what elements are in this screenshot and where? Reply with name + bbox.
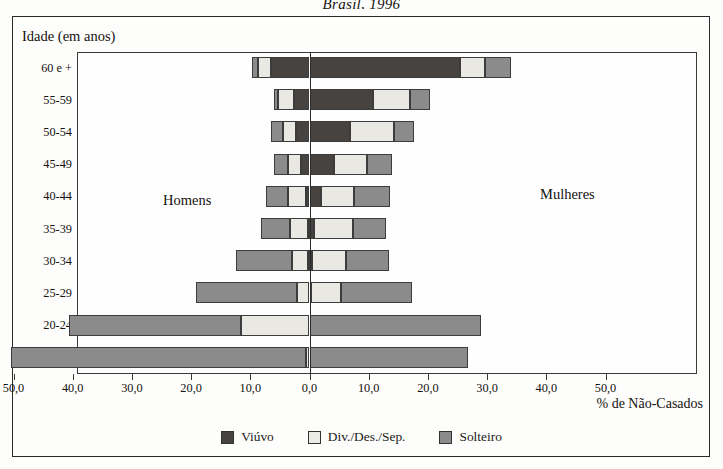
bar-segment-homens-viuvo — [296, 121, 310, 142]
bar-segment-homens-div — [278, 89, 295, 110]
bar-segment-mulheres-div — [312, 250, 346, 271]
x-tick-mark — [369, 374, 370, 380]
bar-segment-homens-solteiro — [11, 347, 306, 368]
legend-swatch-solteiro — [439, 431, 452, 444]
bar-segment-mulheres-solteiro — [341, 282, 411, 303]
legend-item-solteiro: Solteiro — [439, 429, 501, 445]
bar-segment-mulheres-div — [350, 121, 393, 142]
figure-root: Brasil, 1996 Idade (em anos) 60 e +55-59… — [0, 0, 723, 469]
x-tick-label: 30,0 — [476, 381, 498, 396]
bar-segment-mulheres-div — [311, 282, 342, 303]
legend-label-div: Div./Des./Sep. — [328, 429, 406, 445]
bar-segment-homens-div — [288, 154, 301, 175]
bar-segment-mulheres-solteiro — [367, 154, 392, 175]
bar-segment-homens-solteiro — [236, 250, 292, 271]
legend-swatch-div — [308, 431, 321, 444]
bar-segment-mulheres-solteiro — [410, 89, 430, 110]
bar-segment-mulheres-solteiro — [394, 121, 414, 142]
bar-segment-mulheres-viuvo — [310, 89, 373, 110]
bar-segment-mulheres-div — [373, 89, 410, 110]
bar-segment-homens-solteiro — [274, 89, 278, 110]
bar-row — [77, 315, 697, 336]
x-tick-label: 50,0 — [3, 381, 25, 396]
bar-segment-homens-div — [258, 57, 271, 78]
bar-row — [77, 218, 697, 239]
figure-title: Brasil, 1996 — [0, 0, 723, 9]
bar-segment-homens-div — [290, 218, 308, 239]
group-label-mulheres: Mulheres — [540, 186, 595, 203]
y-tick-55-59: 55-59 — [6, 93, 72, 107]
bar-row — [77, 347, 697, 368]
bar-segment-mulheres-viuvo — [310, 186, 322, 207]
bar-series-container — [77, 52, 697, 374]
bar-row — [77, 250, 697, 271]
bar-row — [77, 57, 697, 78]
bar-segment-mulheres-solteiro — [354, 186, 390, 207]
x-axis: 50,040,030,020,010,00,010,020,030,040,05… — [77, 374, 697, 375]
x-tick-mark — [73, 374, 74, 380]
zero-axis-line — [310, 52, 312, 374]
y-tick-30-34: 30-34 — [6, 254, 72, 268]
x-tick-label: 0,0 — [302, 381, 317, 396]
x-tick-mark — [250, 374, 251, 380]
x-tick-label: 40,0 — [62, 381, 84, 396]
bar-segment-homens-viuvo — [301, 154, 310, 175]
x-tick-label: 50,0 — [595, 381, 617, 396]
bar-segment-mulheres-solteiro — [485, 57, 510, 78]
bar-segment-mulheres-solteiro — [310, 347, 467, 368]
x-tick-label: 20,0 — [180, 381, 202, 396]
bar-segment-mulheres-div — [321, 186, 354, 207]
bar-segment-homens-div — [292, 250, 309, 271]
chart-legend: ViúvoDiv./Des./Sep.Solteiro — [0, 429, 723, 445]
bar-segment-mulheres-solteiro — [353, 218, 386, 239]
bar-segment-homens-solteiro — [271, 121, 283, 142]
y-axis-tick-labels: 60 e +55-5950-5445-4940-4435-3930-3425-2… — [0, 52, 72, 374]
bar-segment-mulheres-viuvo — [310, 121, 351, 142]
bar-segment-mulheres-solteiro — [310, 315, 481, 336]
y-tick-40-44: 40-44 — [6, 189, 72, 203]
x-tick-label: 40,0 — [536, 381, 558, 396]
x-tick-mark — [546, 374, 547, 380]
legend-item-div: Div./Des./Sep. — [308, 429, 406, 445]
bar-row — [77, 121, 697, 142]
bar-segment-homens-solteiro — [69, 315, 241, 336]
group-label-homens: Homens — [163, 192, 211, 209]
x-tick-label: 10,0 — [240, 381, 262, 396]
bar-segment-homens-solteiro — [252, 57, 258, 78]
bar-row — [77, 154, 697, 175]
x-tick-mark — [428, 374, 429, 380]
bar-segment-homens-div — [297, 282, 309, 303]
bar-segment-homens-solteiro — [266, 186, 288, 207]
y-tick-35-39: 35-39 — [6, 222, 72, 236]
bar-segment-mulheres-viuvo — [310, 57, 460, 78]
y-tick-60-e-: 60 e + — [6, 61, 72, 75]
bar-segment-homens-viuvo — [294, 89, 309, 110]
y-tick-25-29: 25-29 — [6, 286, 72, 300]
legend-swatch-viuvo — [221, 431, 234, 444]
x-tick-label: 10,0 — [358, 381, 380, 396]
bar-segment-homens-div — [306, 347, 309, 368]
x-tick-mark — [606, 374, 607, 380]
bar-segment-homens-solteiro — [274, 154, 288, 175]
bar-row — [77, 89, 697, 110]
bar-segment-homens-div — [283, 121, 296, 142]
x-tick-mark — [132, 374, 133, 380]
y-tick-50-54: 50-54 — [6, 125, 72, 139]
bar-segment-homens-solteiro — [196, 282, 297, 303]
bar-segment-homens-viuvo — [271, 57, 309, 78]
bar-segment-homens-solteiro — [261, 218, 290, 239]
bar-segment-mulheres-viuvo — [310, 154, 335, 175]
y-tick-45-49: 45-49 — [6, 157, 72, 171]
bar-segment-mulheres-solteiro — [346, 250, 390, 271]
x-tick-label: 20,0 — [417, 381, 439, 396]
bar-segment-mulheres-div — [314, 218, 353, 239]
y-axis-title: Idade (em anos) — [22, 28, 115, 45]
legend-label-solteiro: Solteiro — [459, 429, 501, 445]
bar-segment-homens-div — [288, 186, 306, 207]
x-tick-mark — [310, 374, 311, 380]
y-tick-20-24: 20-24 — [6, 318, 72, 332]
x-tick-mark — [191, 374, 192, 380]
bar-segment-homens-div — [241, 315, 309, 336]
x-axis-title: % de Não-Casados — [596, 396, 703, 412]
bar-segment-mulheres-div — [334, 154, 367, 175]
